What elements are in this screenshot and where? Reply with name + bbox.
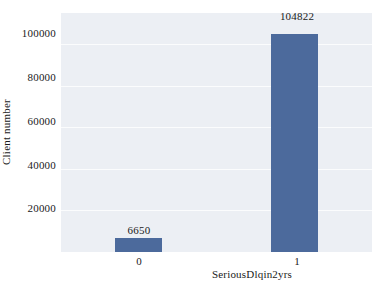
x-axis-title: SeriousDlqin2yrs — [0, 268, 382, 280]
y-axis-title: Client number — [0, 99, 12, 165]
bar-chart-figure: 100000 80000 60000 40000 20000 0 1 6650 … — [0, 0, 382, 292]
bar — [115, 238, 162, 252]
y-axis-tick-label: 100000 — [22, 27, 56, 39]
gridline — [61, 86, 372, 87]
gridline — [61, 169, 372, 170]
y-axis-tick-label: 60000 — [28, 115, 57, 127]
y-axis-tick-label: 40000 — [28, 159, 57, 171]
gridline — [61, 44, 372, 45]
y-axis-tick-label: 80000 — [28, 71, 57, 83]
x-axis-tick-label: 0 — [136, 255, 142, 267]
bar-value-label: 104822 — [280, 10, 314, 22]
x-axis-tick-label: 1 — [294, 255, 300, 267]
gridline — [61, 210, 372, 211]
plot-area — [61, 13, 372, 252]
gridline — [61, 127, 372, 128]
y-axis-tick-label: 20000 — [28, 202, 57, 214]
x-axis-title-text: SeriousDlqin2yrs — [212, 268, 292, 280]
bar-value-label: 6650 — [128, 224, 151, 236]
bar — [271, 34, 318, 252]
